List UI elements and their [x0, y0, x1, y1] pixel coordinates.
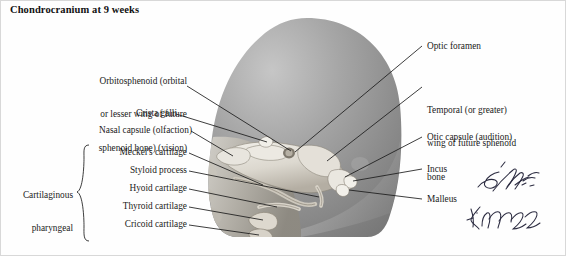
bracket-label-line-0: Cartilaginous — [1, 190, 73, 201]
label-nasal-capsule: Nasal capsule (olfaction) — [1, 125, 192, 136]
figure-panel: Chondrocranium at 9 weeks — [0, 0, 566, 256]
label-orbitosphenoid-line-0: Orbitosphenoid (orbital — [1, 76, 187, 87]
label-crista-galli: Crista galli — [1, 108, 177, 119]
label-optic-foramen: Optic foramen — [427, 41, 481, 52]
label-otic-capsule: Otic capsule (audition) — [427, 132, 512, 143]
bracket-label-line-1: pharyngeal — [1, 223, 73, 234]
label-temporal-wing-line-0: Temporal (or greater) — [427, 105, 516, 116]
label-temporal-wing: Temporal (or greater) wing of future sph… — [427, 82, 516, 206]
label-incus: Incus — [427, 164, 447, 175]
label-meckels-cartilage: Meckel's cartilage — [1, 147, 187, 158]
label-cartilaginous-pharyngeal-arch-skeleton: Cartilaginous pharyngeal arch skeleton — [1, 167, 73, 256]
marazzi-signature — [467, 207, 540, 229]
label-malleus: Malleus — [427, 194, 457, 205]
